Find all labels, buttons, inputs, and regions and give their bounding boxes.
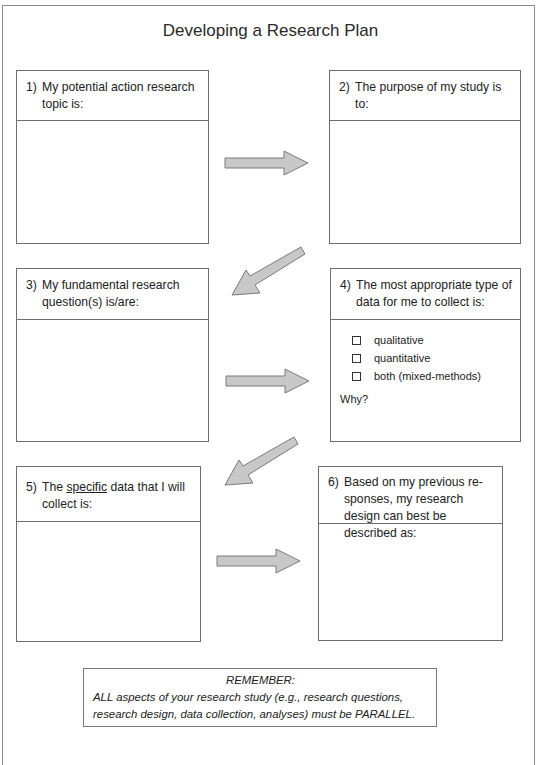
box-data-type: 4)The most appropriate type of data for … xyxy=(330,268,521,442)
arrow-down-left-icon xyxy=(228,246,308,298)
box-study-purpose: 2)The purpose of my study is to: xyxy=(329,70,521,244)
item-number: 1) xyxy=(26,79,42,113)
prompt-emphasis: specific xyxy=(66,480,107,494)
prompt-text: The most appropriate type of data for me… xyxy=(356,277,512,311)
prompt-part: The xyxy=(42,480,66,494)
box-research-questions: 3)My fundamental research question(s) is… xyxy=(16,268,209,442)
box-header: 4)The most appropriate type of data for … xyxy=(331,269,520,320)
box-header: 2)The purpose of my study is to: xyxy=(330,71,520,121)
box-research-design: 6)Based on my previous re-sponses, my re… xyxy=(318,466,503,641)
checkbox-icon[interactable] xyxy=(352,372,361,381)
prompt-text: The specific data that I will collect is… xyxy=(42,479,192,513)
why-label: Why? xyxy=(340,393,368,405)
data-type-options: qualitative quantitative both (mixed-met… xyxy=(352,331,481,385)
answer-area[interactable] xyxy=(17,522,200,641)
remember-note: REMEMBER: ALL aspects of your research s… xyxy=(83,668,437,727)
option-label: quantitative xyxy=(374,349,430,367)
prompt-text: My fundamental research question(s) is/a… xyxy=(42,277,200,311)
item-number: 4) xyxy=(340,277,356,311)
page-title: Developing a Research Plan xyxy=(0,21,541,41)
box-specific-data: 5)The specific data that I will collect … xyxy=(16,466,201,642)
checkbox-icon[interactable] xyxy=(352,336,361,345)
box-header: 1)My potential action research topic is: xyxy=(17,71,208,121)
item-number: 5) xyxy=(26,479,42,513)
remember-heading: REMEMBER: xyxy=(93,672,428,689)
answer-area[interactable] xyxy=(17,121,208,243)
option-mixed-methods[interactable]: both (mixed-methods) xyxy=(352,367,481,385)
arrow-right-icon xyxy=(225,368,311,394)
arrow-down-left-icon xyxy=(221,436,301,488)
answer-area[interactable] xyxy=(330,121,520,243)
arrow-right-icon xyxy=(216,548,302,574)
box-header: 3)My fundamental research question(s) is… xyxy=(17,269,208,320)
checkbox-icon[interactable] xyxy=(352,354,361,363)
box-header: 5)The specific data that I will collect … xyxy=(17,467,200,522)
option-label: both (mixed-methods) xyxy=(374,367,481,385)
answer-area[interactable] xyxy=(17,320,208,441)
option-quantitative[interactable]: quantitative xyxy=(352,349,481,367)
remember-body: ALL aspects of your research study (e.g.… xyxy=(93,689,428,723)
option-qualitative[interactable]: qualitative xyxy=(352,331,481,349)
answer-area[interactable] xyxy=(319,524,502,640)
box-header: 6)Based on my previous re-sponses, my re… xyxy=(319,467,502,524)
box-research-topic: 1)My potential action research topic is: xyxy=(16,70,209,244)
item-number: 2) xyxy=(339,79,355,113)
arrow-right-icon xyxy=(224,150,310,176)
prompt-text: The purpose of my study is to: xyxy=(355,79,512,113)
item-number: 3) xyxy=(26,277,42,311)
prompt-text: My potential action research topic is: xyxy=(42,79,200,113)
option-label: qualitative xyxy=(374,331,424,349)
